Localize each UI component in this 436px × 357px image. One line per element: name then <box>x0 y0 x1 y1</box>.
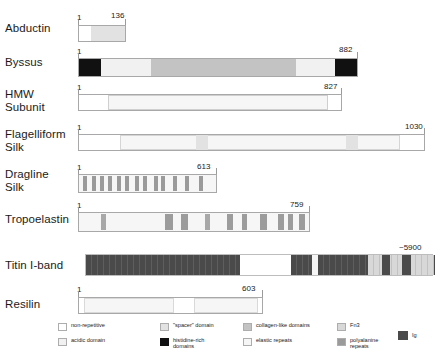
segment-elastic-repeats-2 <box>194 298 258 313</box>
segment-ig-insert-1 <box>382 255 390 275</box>
legend-swatch-ig-icon <box>398 331 408 340</box>
segment-ig-insert-2 <box>402 255 411 275</box>
segment-non-repetitive-n <box>79 95 108 110</box>
protein-label-flagelliform-silk: Flagelliform Silk <box>5 128 66 153</box>
segment-collagen-like-6 <box>242 214 247 230</box>
domain-bar-flagelliform-silk <box>78 134 425 151</box>
segment-spacer-domain-1 <box>196 135 208 150</box>
legend-item-ig: Ig <box>398 330 417 340</box>
segment-spacer-domain-2 <box>346 135 358 150</box>
segment-polyalanine-8 <box>143 176 147 191</box>
segment-fn3-region <box>368 255 434 275</box>
segment-polyalanine-2 <box>92 176 96 191</box>
segment-non-repetitive-linker <box>174 298 194 313</box>
legend-item-non-repetitive: non-repetitive <box>58 322 105 331</box>
legend-label-ig: Ig <box>412 332 417 338</box>
tick-end-resilin: 603 <box>242 284 255 293</box>
segment-polyalanine-9 <box>154 176 158 191</box>
protein-label-byssus: Byssus <box>5 56 43 69</box>
segment-non-repetitive-c <box>328 95 341 110</box>
segment-polyalanine-12 <box>185 176 189 191</box>
segment-collagen-like-7 <box>260 214 267 230</box>
legend-label-acidic-domain: acidic domain <box>71 337 105 343</box>
protein-label-resilin: Resilin <box>5 298 40 311</box>
segment-non-repetitive-pevk <box>240 255 291 275</box>
tick-end-dragline-silk: 613 <box>197 162 210 171</box>
protein-row-hmw-subunit: HMW Subunit 1 827 <box>0 82 436 114</box>
legend-item-acidic-domain: acidic domain <box>58 337 105 346</box>
domain-bar-dragline-silk <box>78 174 217 193</box>
segment-polyalanine-10 <box>161 176 165 191</box>
segment-collagen-like-5 <box>227 214 233 230</box>
legend-label-elastic-repeats: elastic repeats <box>256 337 292 343</box>
legend-label-polyalanine-repeats: polyalanine repeats <box>350 337 378 350</box>
segment-histidine-rich-c <box>335 59 357 76</box>
legend-item-polyalanine-repeats: polyalanine repeats <box>337 337 378 350</box>
legend-swatch-collagen-like-icon <box>243 323 252 331</box>
segment-collagen-like-3 <box>181 214 188 230</box>
legend-label-fn3: Fn3 <box>350 322 360 328</box>
protein-row-abductin: Abductin 1 136 <box>0 8 436 38</box>
domain-bar-tropoelastin <box>78 212 310 232</box>
protein-row-byssus: Byssus 1 882 <box>0 44 436 76</box>
segment-collagen-like-2 <box>165 214 173 230</box>
legend: non-repetitive acidic domain "spacer" do… <box>0 318 436 357</box>
protein-row-titin-i-band: Titin I-band ~5900 <box>0 240 436 280</box>
segment-elastic-repeats-1 <box>84 298 174 313</box>
protein-label-hmw-subunit: HMW Subunit <box>5 88 45 113</box>
segment-polyalanine-5 <box>117 176 121 191</box>
legend-swatch-elastic-repeats-icon <box>243 338 252 346</box>
segment-histidine-rich-n <box>79 59 101 76</box>
tick-end-hmw-subunit: 827 <box>324 82 337 91</box>
legend-item-fn3: Fn3 <box>337 322 360 331</box>
legend-label-spacer-domain: "spacer" domain <box>173 322 214 328</box>
segment-polyalanine-7 <box>135 176 139 191</box>
segment-non-repetitive <box>79 26 91 41</box>
tick-end-abductin: 136 <box>111 11 124 20</box>
legend-swatch-fn3-icon <box>337 323 346 331</box>
segment-ig-proximal <box>86 255 240 275</box>
segment-collagen-like <box>151 59 296 76</box>
legend-swatch-acidic-domain-icon <box>58 338 67 346</box>
protein-label-dragline-silk: Dragline Silk <box>5 168 49 193</box>
legend-label-non-repetitive: non-repetitive <box>71 322 105 328</box>
domain-bar-byssus <box>78 58 358 77</box>
protein-row-resilin: Resilin 1 603 <box>0 284 436 318</box>
tick-end-titin-i-band: ~5900 <box>399 243 421 252</box>
segment-non-repetitive-c <box>400 135 424 150</box>
segment-polyalanine-6 <box>125 176 129 191</box>
protein-label-titin-i-band: Titin I-band <box>5 259 63 272</box>
protein-row-flagelliform-silk: Flagelliform Silk 1 1030 <box>0 122 436 156</box>
segment-spacer-domain <box>91 26 125 41</box>
domain-bar-titin-i-band <box>85 254 433 276</box>
figure-canvas: Abductin 1 136 Byssus 1 882 HMW Subunit … <box>0 0 436 357</box>
legend-label-collagen-like-domains: collagen-like domains <box>256 322 310 328</box>
tickline-end-resilin <box>262 290 263 297</box>
segment-acidic-c <box>296 59 335 76</box>
segment-elastic-repeats-3 <box>358 135 399 150</box>
segment-collagen-like-1 <box>101 214 106 230</box>
segment-acidic-n <box>101 59 151 76</box>
segment-collagen-like-8 <box>278 214 284 230</box>
tick-end-byssus: 882 <box>339 45 352 54</box>
segment-ig-middle <box>291 255 312 275</box>
domain-bar-hmw-subunit <box>78 94 342 111</box>
protein-label-tropoelastin: Tropoelastin <box>5 213 69 226</box>
protein-row-tropoelastin: Tropoelastin 1 759 <box>0 200 436 234</box>
segment-collagen-like-4 <box>205 214 210 230</box>
segment-non-repetitive-n <box>79 135 120 150</box>
legend-item-spacer-domain: "spacer" domain <box>160 322 214 331</box>
legend-item-collagen-like-domains: collagen-like domains <box>243 322 310 331</box>
tick-end-flagelliform-silk: 1030 <box>405 122 423 131</box>
domain-bar-resilin <box>78 297 263 314</box>
segment-elastic-repeats-1 <box>120 135 196 150</box>
segment-polyalanine-13 <box>199 176 203 191</box>
legend-label-histidine-rich-domains: histidine-rich domains <box>173 337 204 350</box>
segment-polyalanine-4 <box>108 176 112 191</box>
protein-row-dragline-silk: Dragline Silk 1 613 <box>0 162 436 196</box>
legend-item-histidine-rich-domains: histidine-rich domains <box>160 337 204 350</box>
segment-elastic-repeats <box>108 95 328 110</box>
legend-item-elastic-repeats: elastic repeats <box>243 337 292 346</box>
legend-swatch-non-repetitive-icon <box>58 323 67 331</box>
segment-polyalanine-1 <box>83 176 87 191</box>
